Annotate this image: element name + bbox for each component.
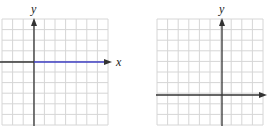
x-axis-label: x bbox=[115, 55, 122, 69]
grid-lines bbox=[157, 19, 263, 125]
coordinate-graphs: yx yx bbox=[0, 0, 269, 139]
y-axis-label: y bbox=[218, 2, 225, 16]
grid-lines bbox=[2, 19, 108, 125]
left-coordinate-grid: yx bbox=[0, 2, 122, 126]
y-axis-label: y bbox=[30, 2, 37, 16]
right-coordinate-grid: yx bbox=[156, 2, 269, 126]
